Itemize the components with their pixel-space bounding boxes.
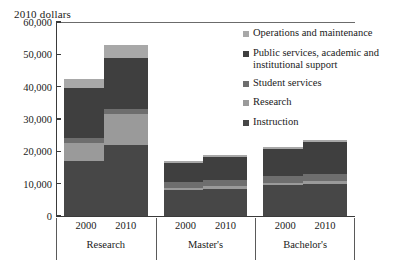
legend-item: Student services: [243, 77, 419, 90]
legend-label: Operations and maintenance: [253, 27, 373, 40]
bar-stack: [64, 79, 108, 216]
x-axis-year-label: 2000: [75, 220, 96, 231]
bar-segment: [104, 45, 148, 58]
bar-segment: [263, 176, 307, 183]
legend-item: Operations and maintenance: [243, 27, 419, 40]
bar-segment: [64, 79, 108, 89]
y-axis-tick-label: 30,000: [23, 114, 52, 125]
legend-item: Research: [243, 96, 419, 109]
x-axis-group-separator: [56, 218, 57, 260]
legend-swatch-icon: [243, 81, 249, 87]
legend-swatch-icon: [243, 51, 249, 57]
y-axis-tick-labels: 010,00020,00030,00040,00050,00060,000: [0, 22, 52, 216]
y-axis-tick-label: 50,000: [23, 49, 52, 60]
bar-segment: [203, 189, 247, 216]
x-axis-year-label: 2010: [215, 220, 236, 231]
bar-stack: [104, 45, 148, 216]
bar-segment: [203, 157, 247, 180]
legend-label: Instruction: [253, 116, 299, 129]
y-axis-tick-label: 40,000: [23, 81, 52, 92]
bar-segment: [303, 184, 347, 216]
x-axis-year-label: 2010: [315, 220, 336, 231]
legend-label: Public services, academic and institutio…: [253, 47, 419, 72]
legend-label: Research: [253, 96, 291, 109]
bar-segment: [263, 185, 307, 216]
x-axis-year-label: 2000: [175, 220, 196, 231]
x-axis-group-separator: [156, 218, 157, 260]
x-axis-year-label: 2010: [115, 220, 136, 231]
y-axis-tick-mark: [56, 183, 61, 184]
legend-item: Public services, academic and institutio…: [243, 47, 419, 72]
x-axis-group-label: Research: [87, 239, 125, 250]
x-axis-labels: 200020102000201020002010ResearchMaster's…: [56, 218, 355, 261]
y-axis-tick-mark: [56, 215, 61, 216]
bar-segment: [303, 174, 347, 182]
chart-legend: Operations and maintenancePublic service…: [243, 27, 419, 135]
x-axis-year-label: 2000: [275, 220, 296, 231]
legend-swatch-icon: [243, 31, 249, 37]
legend-item: Instruction: [243, 116, 419, 129]
y-axis-tick-mark: [56, 86, 61, 87]
y-axis-tick-label: 0: [47, 211, 52, 222]
y-axis-tick-label: 20,000: [23, 146, 52, 157]
bar-segment: [104, 58, 148, 109]
bar-segment: [64, 161, 108, 216]
legend-swatch-icon: [243, 120, 249, 126]
bar-segment: [104, 145, 148, 216]
chart-figure: 2010 dollars 010,00020,00030,00040,00050…: [0, 0, 419, 261]
bar-segment: [164, 190, 208, 216]
y-axis-tick-mark: [56, 54, 61, 55]
x-axis-group-separator: [354, 218, 355, 260]
y-axis-tick-mark: [56, 21, 61, 22]
bar-stack: [203, 155, 247, 216]
bar-stack: [303, 140, 347, 216]
bar-stack: [164, 161, 208, 216]
bar-stack: [263, 146, 307, 216]
bar-segment: [64, 88, 108, 138]
y-axis-tick-mark: [56, 151, 61, 152]
legend-label: Student services: [253, 77, 322, 90]
y-axis-tick-mark: [56, 118, 61, 119]
y-axis-tick-label: 60,000: [23, 17, 52, 28]
bar-segment: [303, 142, 347, 173]
x-axis-group-label: Bachelor's: [283, 239, 327, 250]
bar-segment: [104, 114, 148, 145]
legend-swatch-icon: [243, 100, 249, 106]
bar-segment: [164, 163, 208, 183]
bar-segment: [64, 143, 108, 161]
y-axis-tick-label: 10,000: [23, 178, 52, 189]
x-axis-group-separator: [255, 218, 256, 260]
x-axis-group-label: Master's: [188, 239, 223, 250]
bar-segment: [263, 149, 307, 176]
